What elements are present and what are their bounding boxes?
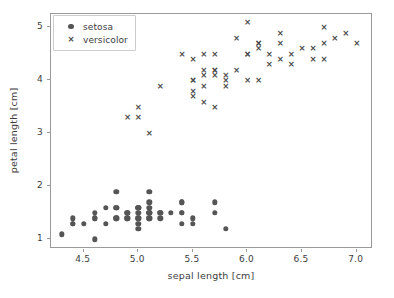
data-point-setosa — [136, 216, 141, 221]
data-point-setosa — [114, 216, 119, 221]
data-point-setosa — [70, 216, 75, 221]
data-point-versicolor: × — [200, 50, 207, 57]
data-point-setosa — [136, 205, 141, 210]
x-tick-label: 5.5 — [184, 254, 199, 264]
data-point-setosa — [92, 210, 97, 215]
data-point-versicolor: × — [255, 45, 262, 52]
data-point-setosa — [157, 216, 162, 221]
data-point-versicolor: × — [211, 72, 218, 79]
data-point-versicolor: × — [266, 50, 273, 57]
data-point-versicolor: × — [233, 66, 240, 73]
data-point-versicolor: × — [135, 114, 142, 121]
y-tick-label: 2 — [37, 180, 43, 190]
y-tick-mark — [47, 132, 50, 133]
data-point-versicolor: × — [189, 77, 196, 84]
x-tick-label: 6.0 — [239, 254, 254, 264]
data-point-setosa — [114, 216, 119, 221]
data-point-versicolor: × — [244, 77, 251, 84]
data-point-versicolor: × — [244, 50, 251, 57]
data-point-versicolor: × — [200, 98, 207, 105]
data-point-setosa — [125, 216, 130, 221]
y-tick-label: 5 — [37, 21, 43, 31]
y-tick-label: 4 — [37, 74, 43, 84]
data-point-versicolor: × — [189, 93, 196, 100]
data-point-setosa — [147, 210, 152, 215]
x-tick-label: 6.5 — [294, 254, 309, 264]
data-point-versicolor: × — [288, 61, 295, 68]
data-point-setosa — [136, 221, 141, 226]
data-point-setosa — [114, 205, 119, 210]
data-point-versicolor: × — [189, 56, 196, 63]
data-point-setosa — [168, 210, 173, 215]
x-tick-mark — [301, 249, 302, 252]
data-point-versicolor: × — [299, 45, 306, 52]
y-tick-mark — [47, 238, 50, 239]
data-point-versicolor: × — [124, 114, 131, 121]
x-tick-label: 7.0 — [348, 254, 363, 264]
y-axis-label-text: petal length [cm] — [9, 88, 20, 174]
y-axis-label: petal length [cm] — [8, 13, 20, 248]
x-tick-label: 4.5 — [75, 254, 90, 264]
data-point-versicolor: × — [320, 40, 327, 47]
data-point-versicolor: × — [157, 82, 164, 89]
data-point-versicolor: × — [255, 77, 262, 84]
data-point-setosa — [92, 237, 97, 242]
data-point-versicolor: × — [244, 18, 251, 25]
legend-label: versicolor — [83, 35, 128, 45]
data-point-versicolor: × — [211, 50, 218, 57]
data-point-setosa — [147, 216, 152, 221]
data-point-setosa — [179, 210, 184, 215]
data-point-setosa — [212, 200, 217, 205]
data-point-setosa — [147, 210, 152, 215]
data-point-setosa — [81, 221, 86, 226]
data-point-setosa — [223, 226, 228, 231]
data-point-setosa — [125, 210, 130, 215]
data-point-setosa — [114, 189, 119, 194]
y-tick-label: 1 — [37, 233, 43, 243]
data-point-versicolor: × — [189, 77, 196, 84]
data-point-setosa — [92, 216, 97, 221]
y-tick-mark — [47, 185, 50, 186]
data-point-setosa — [147, 205, 152, 210]
data-point-setosa — [147, 189, 152, 194]
data-point-versicolor: × — [277, 40, 284, 47]
data-point-versicolor: × — [331, 34, 338, 41]
data-point-versicolor: × — [135, 103, 142, 110]
legend-item-versicolor[interactable]: ×versicolor — [59, 33, 128, 46]
y-tick-mark — [47, 26, 50, 27]
legend[interactable]: setosa×versicolor — [53, 15, 136, 51]
data-point-setosa — [136, 205, 141, 210]
data-point-versicolor: × — [288, 50, 295, 57]
data-point-setosa — [157, 210, 162, 215]
data-point-setosa — [70, 221, 75, 226]
data-point-versicolor: × — [309, 45, 316, 52]
data-point-versicolor: × — [244, 50, 251, 57]
data-point-setosa — [125, 210, 130, 215]
x-tick-label: 5.0 — [130, 254, 145, 264]
data-point-versicolor: × — [255, 40, 262, 47]
data-point-setosa — [190, 216, 195, 221]
y-tick-mark — [47, 79, 50, 80]
data-point-versicolor: × — [211, 103, 218, 110]
data-point-versicolor: × — [266, 61, 273, 68]
data-point-versicolor: × — [233, 34, 240, 41]
x-axis-label: sepal length [cm] — [50, 270, 372, 281]
data-point-versicolor: × — [222, 82, 229, 89]
data-point-versicolor: × — [277, 56, 284, 63]
data-point-setosa — [147, 200, 152, 205]
data-point-versicolor: × — [255, 40, 262, 47]
scatter-plot-figure: ××××××××××××××××××××××××××××××××××××××××… — [0, 0, 394, 298]
data-point-setosa — [190, 221, 195, 226]
data-point-versicolor: × — [320, 56, 327, 63]
x-tick-mark — [137, 249, 138, 252]
data-point-setosa — [179, 200, 184, 205]
data-point-setosa — [136, 226, 141, 231]
y-tick-label: 3 — [37, 127, 43, 137]
legend-item-setosa[interactable]: setosa — [59, 20, 128, 33]
data-point-setosa — [212, 210, 217, 215]
data-point-versicolor: × — [222, 77, 229, 84]
data-point-versicolor: × — [353, 40, 360, 47]
data-point-versicolor: × — [309, 56, 316, 63]
data-point-versicolor: × — [211, 66, 218, 73]
data-point-setosa — [136, 205, 141, 210]
